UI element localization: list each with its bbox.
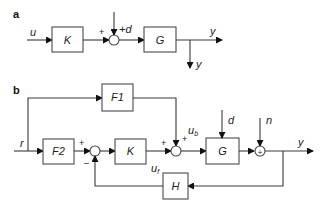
- panel-b: b r F1 ub + F2 + – K: [13, 84, 313, 199]
- block-k-b: K: [115, 139, 146, 164]
- block-g-b-label: G: [218, 145, 227, 157]
- noise-n-label: n: [266, 114, 272, 126]
- measured-y-label: y: [195, 58, 203, 70]
- block-k-a: K: [52, 27, 83, 52]
- summing-junction-2: [171, 146, 181, 156]
- block-g-a: G: [144, 27, 176, 52]
- block-f2-label: F2: [52, 145, 65, 157]
- output-y-label: y: [209, 25, 217, 37]
- block-g-label: G: [156, 34, 165, 46]
- signal-u-label: u: [30, 26, 36, 38]
- feedback-uf-label: uf: [151, 162, 160, 175]
- block-k-label: K: [64, 34, 72, 46]
- block-f1-label: F1: [111, 91, 124, 103]
- sum1-plus-sign: +: [79, 138, 84, 148]
- summing-junction-1: [90, 146, 100, 156]
- block-g-b: G: [206, 138, 239, 164]
- block-diagram: a u K + +d G y y b r: [0, 0, 323, 212]
- sum-plus-sign: +: [99, 27, 104, 37]
- feedforward-ub-label: ub: [188, 124, 198, 137]
- sum2-plus-top-sign: +: [182, 134, 187, 144]
- panel-a: a u K + +d G y y: [13, 8, 222, 70]
- summing-junction-3: +: [255, 146, 265, 157]
- block-k-b-label: K: [127, 145, 135, 157]
- reference-r-label: r: [20, 137, 25, 149]
- panel-a-label: a: [13, 8, 20, 20]
- panel-b-label: b: [13, 84, 20, 96]
- block-f2: F2: [43, 139, 74, 164]
- output-y-b-label: y: [297, 136, 305, 148]
- svg-text:+: +: [258, 148, 263, 157]
- block-f1: F1: [102, 84, 133, 111]
- block-h: H: [163, 173, 188, 199]
- sum2-plus-left-sign: +: [161, 138, 166, 148]
- summing-junction-a: [109, 35, 119, 45]
- disturbance-d-b-label: d: [228, 114, 235, 126]
- block-h-label: H: [172, 180, 180, 192]
- disturbance-d-label: +d: [119, 23, 132, 35]
- sum1-minus-sign: –: [84, 158, 89, 168]
